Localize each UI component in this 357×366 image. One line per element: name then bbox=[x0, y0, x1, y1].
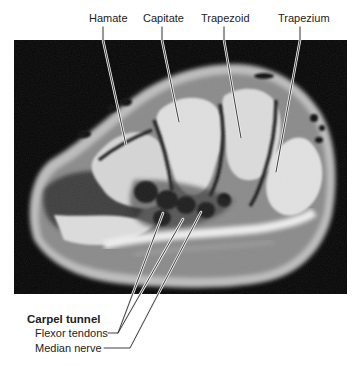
label-hamate: Hamate bbox=[89, 12, 128, 25]
label-median-nerve: Median nerve bbox=[35, 342, 102, 355]
mri-image bbox=[14, 40, 347, 294]
label-carpal-tunnel: Carpel tunnel bbox=[27, 313, 100, 326]
label-trapezoid: Trapezoid bbox=[201, 12, 250, 25]
mri-wrist-cross-section bbox=[14, 40, 347, 294]
label-flexor-tendons: Flexor tendons bbox=[35, 327, 108, 340]
label-trapezium: Trapezium bbox=[278, 12, 330, 25]
label-capitate: Capitate bbox=[143, 12, 184, 25]
